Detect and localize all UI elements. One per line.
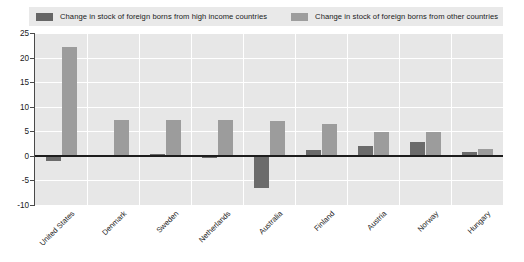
gridline-horizontal bbox=[35, 82, 503, 83]
bar-high-income[interactable] bbox=[410, 142, 425, 156]
legend-entry-high-income[interactable]: Change in stock of foreign borns from hi… bbox=[36, 12, 267, 21]
gridline-vertical bbox=[139, 33, 140, 205]
gridline-horizontal bbox=[35, 107, 503, 108]
chart-container: Change in stock of foreign borns from hi… bbox=[0, 0, 524, 262]
gridline-vertical bbox=[87, 33, 88, 205]
bar-other[interactable] bbox=[218, 120, 233, 155]
gridline-horizontal bbox=[35, 205, 503, 206]
bar-other[interactable] bbox=[62, 47, 77, 156]
gridline-horizontal bbox=[35, 33, 503, 34]
y-axis-labels: 2520151050-5-10 bbox=[0, 0, 29, 262]
x-axis-tick-label: United States bbox=[38, 209, 77, 248]
gridline-vertical bbox=[295, 33, 296, 205]
plot-area bbox=[35, 33, 503, 205]
y-axis-tick-label: -10 bbox=[3, 201, 29, 210]
x-axis-tick-label: Netherlands bbox=[197, 209, 232, 244]
y-axis-tick-label: 25 bbox=[3, 29, 29, 38]
bar-other[interactable] bbox=[166, 120, 181, 155]
gridline-vertical bbox=[243, 33, 244, 205]
x-axis-tick-label: Australia bbox=[257, 209, 284, 236]
bar-other[interactable] bbox=[374, 132, 389, 156]
gridline-vertical bbox=[399, 33, 400, 205]
y-axis-tick-label: 0 bbox=[3, 151, 29, 160]
y-axis-tick-label: 5 bbox=[3, 127, 29, 136]
gridline-horizontal bbox=[35, 58, 503, 59]
bar-other[interactable] bbox=[322, 124, 337, 156]
bar-other[interactable] bbox=[270, 121, 285, 155]
gridline-vertical bbox=[347, 33, 348, 205]
legend-label-high-income: Change in stock of foreign borns from hi… bbox=[60, 12, 267, 21]
legend-swatch-icon-high-income bbox=[36, 13, 53, 21]
gridline-horizontal bbox=[35, 180, 503, 181]
bar-other[interactable] bbox=[426, 132, 441, 156]
gridline-vertical bbox=[451, 33, 452, 205]
legend-label-other: Change in stock of foreign borns from ot… bbox=[315, 12, 498, 21]
x-axis-tick-label: Austria bbox=[365, 209, 388, 232]
y-axis-tick-label: 10 bbox=[3, 102, 29, 111]
y-axis-tick-label: -5 bbox=[3, 176, 29, 185]
x-axis-tick-label: Hungary bbox=[466, 209, 493, 236]
x-axis-tick-label: Finland bbox=[312, 209, 336, 233]
gridline-vertical bbox=[191, 33, 192, 205]
x-axis-tick-label: Sweden bbox=[155, 209, 181, 235]
chart-legend: Change in stock of foreign borns from hi… bbox=[29, 7, 503, 26]
legend-swatch-icon-other bbox=[291, 13, 308, 21]
zero-baseline bbox=[35, 155, 503, 157]
y-axis-tick-label: 20 bbox=[3, 53, 29, 62]
y-axis-tick-label: 15 bbox=[3, 78, 29, 87]
x-axis-tick-label: Norway bbox=[416, 209, 441, 234]
bar-high-income[interactable] bbox=[254, 156, 269, 188]
x-axis-tick-label: Denmark bbox=[100, 209, 128, 237]
legend-entry-other[interactable]: Change in stock of foreign borns from ot… bbox=[291, 12, 498, 21]
bar-other[interactable] bbox=[114, 120, 129, 155]
